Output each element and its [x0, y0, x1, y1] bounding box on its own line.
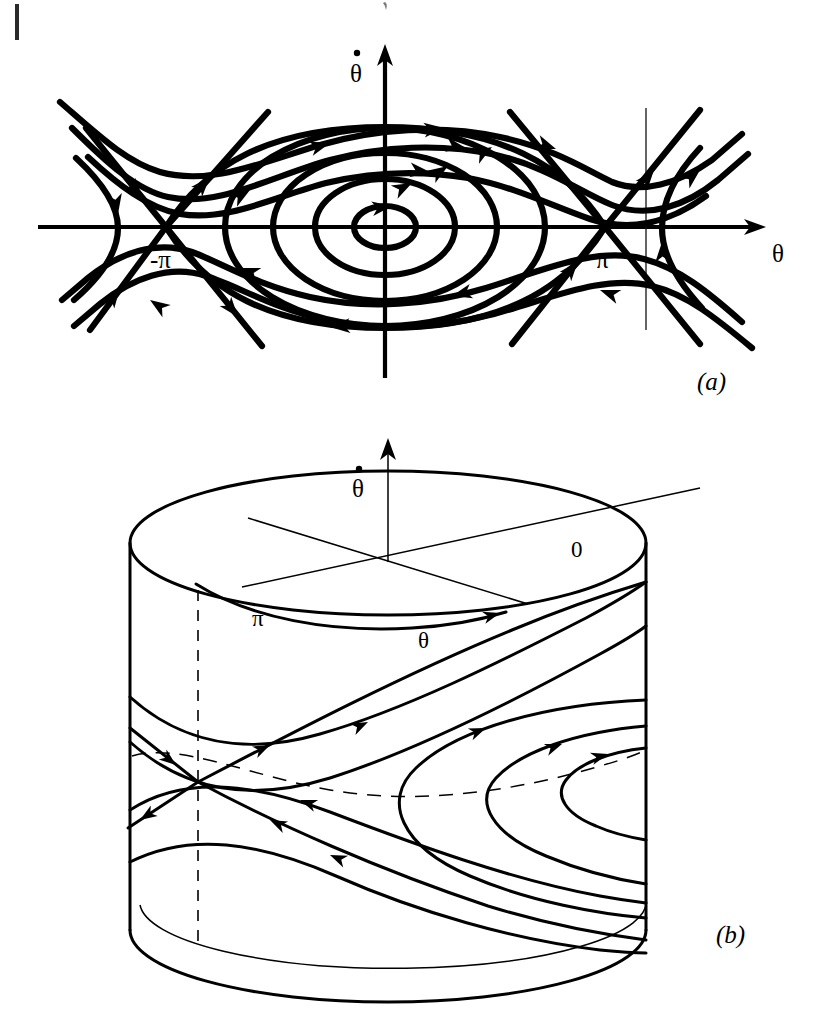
rotation-lower-outer-arrow-2 [146, 294, 171, 317]
panel-b-theta-dot-label: θ [352, 475, 364, 502]
saddle-left-stable-in-2 [90, 227, 166, 330]
libration-orbit-cyl-1-arrow [468, 722, 488, 740]
panel-b-pi-label: π [252, 606, 264, 631]
running-orbit-lower-2 [130, 844, 646, 953]
panel-a-rotation-orbits-upper [60, 102, 748, 225]
panel-a-pi-label: π [596, 246, 609, 273]
panel-a-theta-label: θ [772, 240, 784, 267]
cyl-saddle-stable-in-lower-right [198, 782, 646, 940]
pendulum-phase-portrait-figure: θ θ -π π (a) [0, 0, 821, 1023]
cylinder-bottom-inner-lip [140, 898, 646, 968]
figure-root: θ θ -π π (a) [0, 0, 821, 1023]
libration-orbit-cyl-3 [561, 748, 646, 840]
panel-a-theta-dot-label: θ [350, 60, 362, 87]
cyl-saddle-unstable-out-up-right [198, 582, 646, 782]
cylinder-hidden-lines [132, 590, 648, 948]
cyl-saddle-unstable-out-lower-left-arrow [137, 805, 158, 825]
panel-a-group: θ θ -π π (a) [38, 44, 784, 396]
panel-a-labels: θ θ -π π (a) [150, 50, 784, 396]
panel-a-tag: (a) [697, 368, 726, 396]
page-margin-rule [15, 4, 19, 40]
panel-b-theta-label: θ [418, 628, 429, 653]
theta-arc [196, 584, 506, 629]
panel-b-zero-label: 0 [571, 537, 583, 562]
panel-a-theta-dot-overdot [354, 50, 360, 56]
cyl-saddle-unstable-out-up-right-arrow [252, 739, 273, 758]
saddle-left-unstable-out [166, 227, 262, 346]
panel-b-axis [380, 438, 396, 562]
scan-speck [383, 2, 387, 10]
panel-b-tag: (b) [716, 921, 745, 949]
panel-a-minus-pi-label: -π [150, 246, 171, 273]
cylinder-trajectories [128, 582, 646, 953]
libration-orbit-cyl-1 [399, 700, 646, 918]
panel-b-theta-dot-overdot [356, 466, 362, 472]
cylinder-bottom-front [130, 930, 646, 1002]
panel-b-group: θ 0 π θ (b) [128, 438, 745, 1002]
